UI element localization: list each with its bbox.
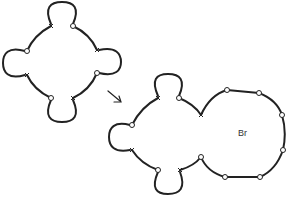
br-ring-arc [260, 150, 283, 177]
oxygen-marker [156, 168, 161, 173]
oxygen-marker [199, 155, 204, 160]
br-ring-arc [282, 115, 285, 150]
oxygen-marker [130, 123, 135, 128]
arrow-shaft [108, 91, 120, 101]
oxygen-marker [258, 175, 263, 180]
loop-left [3, 49, 25, 76]
loop-top [48, 2, 76, 24]
loop-right [99, 49, 121, 74]
oxygen-marker [49, 96, 54, 101]
loop-left [109, 124, 130, 151]
br-ring-arc [259, 93, 282, 115]
oxygen-marker [280, 113, 285, 118]
ring-arc [132, 150, 158, 170]
oxygen-marker [225, 88, 230, 93]
ring-arc [73, 73, 97, 98]
ring-arc [27, 75, 51, 98]
loop-top [155, 74, 182, 96]
ring-arc [132, 98, 158, 125]
oxygen-marker [257, 91, 262, 96]
loop-bottom [48, 100, 76, 122]
macrocycle-diagram: Br [0, 0, 288, 198]
br-ring-arc [201, 90, 227, 115]
bromide-label: Br [238, 128, 247, 138]
oxygen-marker [223, 175, 228, 180]
loop-bottom [155, 172, 183, 194]
br-ring-arc [227, 90, 259, 93]
oxygen-marker [177, 96, 182, 101]
oxygen-marker [25, 49, 30, 54]
ring-arc [73, 26, 97, 50]
ring-arc [180, 157, 201, 170]
oxygen-marker [95, 71, 100, 76]
oxygen-marker [71, 24, 76, 29]
ring-arc [27, 26, 51, 51]
br-ring-arc [201, 157, 225, 177]
ring-arc [179, 98, 201, 115]
oxygen-marker [281, 148, 286, 153]
diagram-canvas: Br [0, 0, 288, 198]
